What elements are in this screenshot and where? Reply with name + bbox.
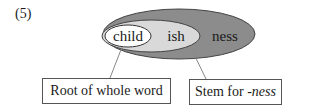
stem-callout-box: Stem for -ness — [189, 79, 282, 105]
root-callout-box: Root of whole word — [42, 78, 171, 104]
root-callout-text: Root of whole word — [50, 83, 162, 98]
label-child: child — [113, 28, 143, 44]
label-ness: ness — [212, 28, 238, 44]
stem-callout-suffix: -ness — [247, 84, 276, 99]
label-ish: ish — [167, 28, 185, 44]
stem-callout-prefix: Stem for — [195, 84, 247, 99]
connector-root — [110, 47, 122, 78]
